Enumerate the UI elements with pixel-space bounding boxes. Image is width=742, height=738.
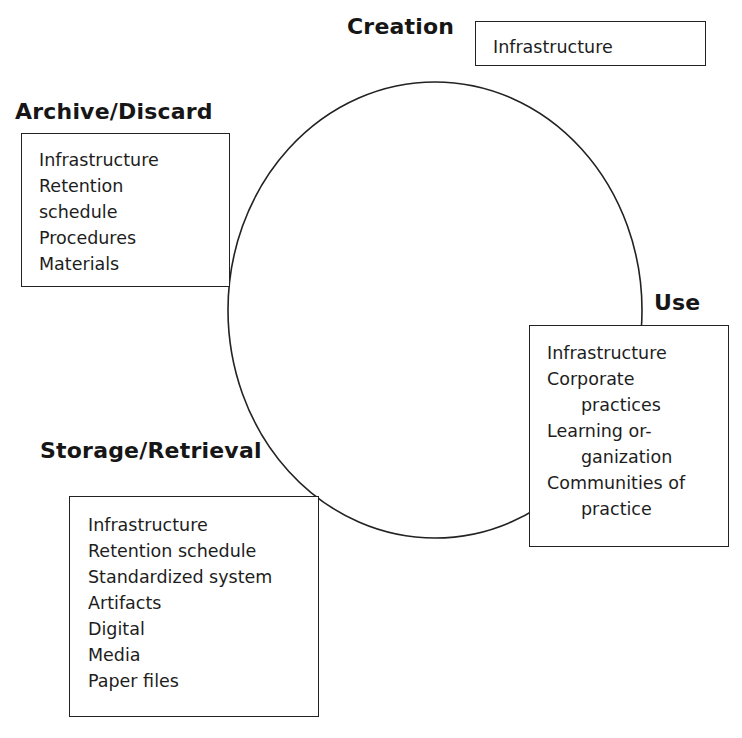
storage-item: Standardized system (88, 564, 318, 590)
archive-item: Retention (39, 173, 229, 199)
use-box: Infrastructure Corporate practices Learn… (529, 325, 729, 547)
use-item: Learning or- (547, 418, 728, 444)
creation-item: Infrastructure (493, 34, 705, 60)
use-item: Communities of (547, 470, 728, 496)
creation-box: Infrastructure (475, 21, 706, 66)
archive-item: Procedures (39, 225, 229, 251)
archive-item: Infrastructure (39, 147, 229, 173)
archive-item: Materials (39, 251, 229, 277)
stage-title-storage: Storage/Retrieval (40, 438, 262, 463)
storage-item: Infrastructure (88, 512, 318, 538)
use-item: practices (547, 392, 728, 418)
storage-item: Retention schedule (88, 538, 318, 564)
use-item: ganization (547, 444, 728, 470)
storage-item: Artifacts (88, 590, 318, 616)
storage-item: Media (88, 642, 318, 668)
archive-box: Infrastructure Retention schedule Proced… (21, 133, 230, 287)
stage-title-creation: Creation (347, 14, 454, 39)
use-item: Infrastructure (547, 340, 728, 366)
use-item: Corporate (547, 366, 728, 392)
storage-item: Digital (88, 616, 318, 642)
stage-title-use: Use (654, 290, 700, 315)
archive-item: schedule (39, 199, 229, 225)
use-item: practice (547, 496, 728, 522)
stage-title-archive: Archive/Discard (15, 99, 213, 124)
storage-item: Paper files (88, 668, 318, 694)
storage-box: Infrastructure Retention schedule Standa… (69, 496, 319, 717)
